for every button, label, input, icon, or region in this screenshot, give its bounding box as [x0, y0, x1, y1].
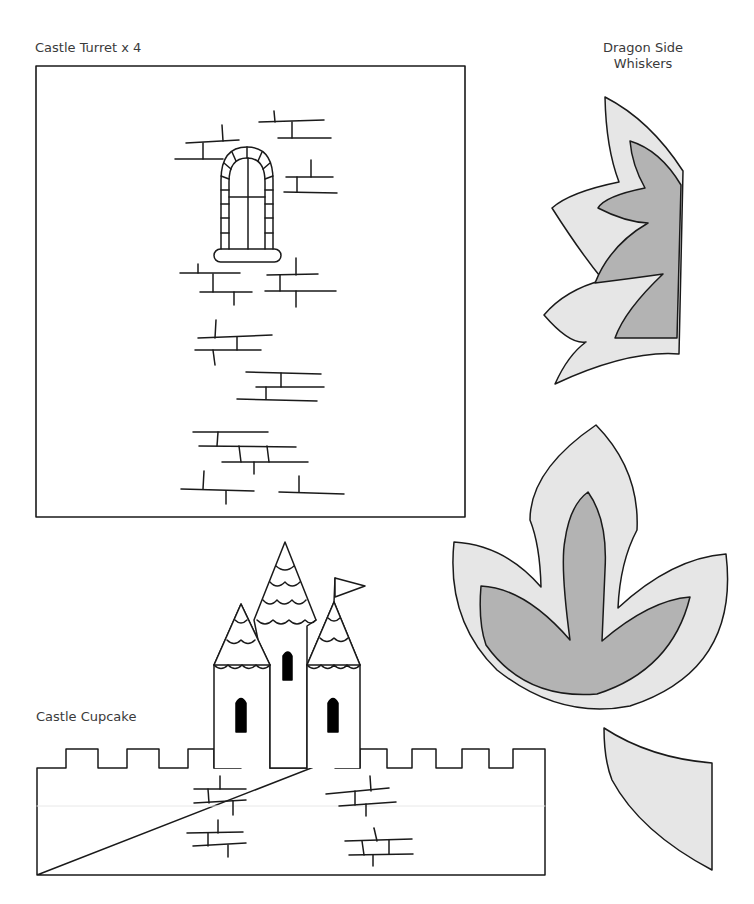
- dragon-tail-template: [453, 425, 728, 709]
- arched-window-icon: [214, 147, 281, 262]
- brick-pattern: [175, 111, 344, 504]
- dragon-spikes-template: [604, 728, 712, 870]
- template-artwork: [0, 0, 754, 904]
- dragon-side-whiskers-template: [544, 97, 683, 384]
- castle-brick-pattern: [187, 776, 413, 866]
- flag-icon: [334, 578, 365, 602]
- castle-turret-template: [36, 66, 465, 517]
